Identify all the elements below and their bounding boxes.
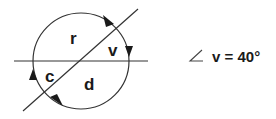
- arrow-right-down-icon: [125, 46, 133, 57]
- angle-icon: [188, 49, 204, 63]
- equation-value: 40°: [237, 48, 260, 65]
- label-r: r: [70, 29, 77, 48]
- angle-equation: v = 40°: [188, 48, 260, 65]
- arrow-bottom-left-icon: [50, 94, 63, 106]
- arrow-left-up-icon: [29, 69, 37, 80]
- label-v: v: [108, 41, 118, 60]
- equation-equals: =: [225, 48, 234, 65]
- label-d: d: [84, 75, 94, 94]
- equation-variable: v: [212, 48, 220, 65]
- label-c: c: [45, 67, 54, 86]
- diagonal-line: [23, 9, 138, 111]
